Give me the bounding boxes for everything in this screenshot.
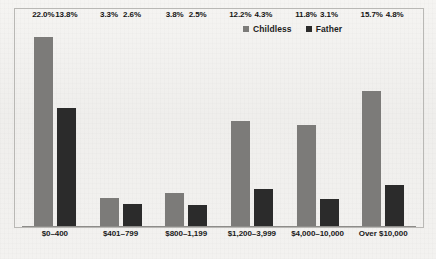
- bar-father[interactable]: 4.3%: [254, 20, 273, 226]
- figure-caption-text: [0, 250, 436, 259]
- bar-group: 15.7%4.8%: [350, 20, 416, 226]
- bar-childless[interactable]: 15.7%: [362, 20, 381, 226]
- bar-rect: [188, 205, 207, 226]
- bar-group: 3.8%2.5%: [153, 20, 219, 226]
- x-axis-tick-labels: $0–400$401–799$800–1,199$1,200–3,999$4,0…: [22, 229, 416, 238]
- bar-value-label: 3.8%: [166, 10, 184, 19]
- figure-caption-clipped: [0, 250, 436, 259]
- bar-rect: [57, 108, 76, 226]
- bar-rect: [165, 193, 184, 226]
- bar-group: 3.3%2.6%: [88, 20, 154, 226]
- bar-childless[interactable]: 12.2%: [231, 20, 250, 226]
- bar-rect: [297, 125, 316, 226]
- bar-value-label: 4.3%: [254, 10, 272, 19]
- bar-value-label: 3.3%: [100, 10, 118, 19]
- bar-father[interactable]: 4.8%: [385, 20, 404, 226]
- bar-value-label: 2.6%: [123, 10, 141, 19]
- bar-value-label: 15.7%: [361, 10, 383, 19]
- bar-childless[interactable]: 11.8%: [297, 20, 316, 226]
- x-axis-tick-label: Over $10,000: [350, 229, 416, 238]
- bar-rect: [385, 185, 404, 226]
- bar-father[interactable]: 3.1%: [320, 20, 339, 226]
- plot-area: 22.0%13.8%3.3%2.6%3.8%2.5%12.2%4.3%11.8%…: [22, 20, 416, 227]
- bar-value-label: 22.0%: [32, 10, 54, 19]
- bar-rect: [123, 204, 142, 226]
- bar-value-label: 3.1%: [320, 10, 338, 19]
- bar-group: 22.0%13.8%: [22, 20, 88, 226]
- bar-value-label: 13.8%: [55, 10, 77, 19]
- x-axis-tick-label: $0–400: [22, 229, 88, 238]
- bar-value-label: 2.5%: [189, 10, 207, 19]
- bar-rect: [362, 91, 381, 226]
- bar-groups: 22.0%13.8%3.3%2.6%3.8%2.5%12.2%4.3%11.8%…: [22, 20, 416, 226]
- bar-rect: [100, 198, 119, 226]
- bar-father[interactable]: 13.8%: [57, 20, 76, 226]
- bar-rect: [254, 189, 273, 226]
- bar-group: 11.8%3.1%: [285, 20, 351, 226]
- bar-group: 12.2%4.3%: [219, 20, 285, 226]
- bar-rect: [231, 121, 250, 226]
- bar-childless[interactable]: 3.3%: [100, 20, 119, 226]
- x-axis-tick-label: $401–799: [88, 229, 154, 238]
- bar-father[interactable]: 2.5%: [188, 20, 207, 226]
- bar-childless[interactable]: 22.0%: [34, 20, 53, 226]
- bar-value-label: 4.8%: [386, 10, 404, 19]
- x-axis-tick-label: $800–1,199: [153, 229, 219, 238]
- bar-value-label: 12.2%: [229, 10, 251, 19]
- bar-value-label: 11.8%: [295, 10, 317, 19]
- bar-childless[interactable]: 3.8%: [165, 20, 184, 226]
- bar-father[interactable]: 2.6%: [123, 20, 142, 226]
- bar-rect: [320, 199, 339, 226]
- x-axis-tick-label: $1,200–3,999: [219, 229, 285, 238]
- bar-rect: [34, 37, 53, 226]
- x-axis-tick-label: $4,000–10,000: [285, 229, 351, 238]
- x-axis-baseline: [22, 226, 416, 227]
